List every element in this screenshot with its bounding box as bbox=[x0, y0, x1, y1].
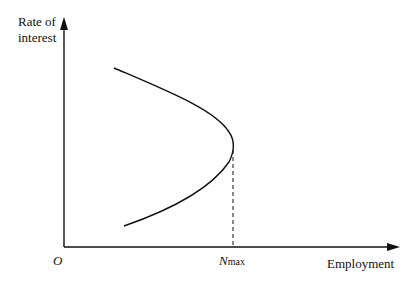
y-axis-label-line2: interest bbox=[18, 30, 56, 45]
nmax-label-main: N bbox=[219, 253, 228, 268]
nmax-label: Nmax bbox=[219, 253, 245, 269]
x-axis-arrow-icon bbox=[387, 243, 400, 251]
diagram-canvas bbox=[0, 0, 410, 286]
nmax-label-sub: max bbox=[228, 256, 245, 267]
y-axis-label-line1: Rate of bbox=[18, 14, 56, 29]
y-axis-arrow-icon bbox=[60, 17, 68, 30]
backward-bending-curve bbox=[114, 68, 234, 226]
origin-label: O bbox=[53, 253, 62, 268]
x-axis-label: Employment bbox=[327, 256, 394, 271]
